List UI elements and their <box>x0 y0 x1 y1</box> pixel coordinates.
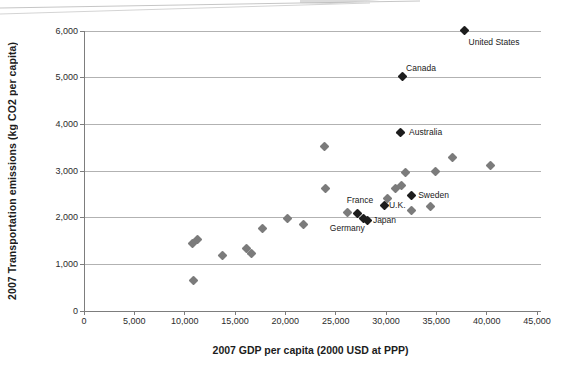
data-point <box>400 168 410 178</box>
data-label-germany: Germany <box>330 223 365 233</box>
data-label-united-states: United States <box>469 37 520 47</box>
x-tick-label: 40,000 <box>462 316 512 326</box>
x-tick-label: 20,000 <box>260 316 310 326</box>
data-point <box>320 141 330 151</box>
y-tick-label: 2,000 <box>38 212 78 222</box>
x-axis-tick <box>134 311 135 315</box>
x-axis-tick <box>285 311 286 315</box>
x-axis-tick <box>235 311 236 315</box>
data-label-japan: Japan <box>373 215 396 225</box>
x-axis-tick <box>537 311 538 315</box>
data-point <box>447 153 457 163</box>
gridline <box>84 77 541 78</box>
y-axis-title: 2007 Transportation emissions (kg CO2 pe… <box>6 28 18 314</box>
page-edge-artifact <box>0 0 578 22</box>
data-point <box>321 184 331 194</box>
gridline <box>84 124 541 125</box>
x-axis-tick <box>184 311 185 315</box>
data-label-canada: Canada <box>406 63 436 73</box>
data-point <box>486 160 496 170</box>
y-axis-line <box>84 31 85 312</box>
data-label-australia: Australia <box>409 127 442 137</box>
x-axis-line <box>84 311 541 312</box>
y-tick-label: 0 <box>38 306 78 316</box>
y-tick-label: 1,000 <box>38 259 78 269</box>
y-tick-label: 5,000 <box>38 72 78 82</box>
data-point <box>218 251 228 261</box>
x-tick-label: 5,000 <box>109 316 159 326</box>
x-tick-label: 45,000 <box>512 316 562 326</box>
x-axis-tick <box>335 311 336 315</box>
data-point-canada <box>397 72 407 82</box>
data-label-u-k: U.K. <box>389 200 406 210</box>
x-axis-tick <box>386 311 387 315</box>
y-axis-tick <box>80 124 84 125</box>
scatter-chart: 2007 Transportation emissions (kg CO2 pe… <box>0 0 578 374</box>
x-axis-tick <box>486 311 487 315</box>
y-tick-label: 4,000 <box>38 119 78 129</box>
data-point-sweden <box>406 190 416 200</box>
data-point <box>189 276 199 286</box>
data-point <box>430 166 440 176</box>
gridline <box>84 217 541 218</box>
y-tick-label: 3,000 <box>38 166 78 176</box>
data-point-united-states <box>460 26 470 36</box>
data-point <box>343 207 353 217</box>
x-tick-label: 15,000 <box>210 316 260 326</box>
gridline <box>84 31 541 32</box>
data-point <box>257 224 267 234</box>
y-axis-tick <box>80 217 84 218</box>
data-label-sweden: Sweden <box>418 190 449 200</box>
data-point <box>282 214 292 224</box>
x-axis-tick <box>84 311 85 315</box>
x-axis-tick <box>436 311 437 315</box>
x-tick-label: 0 <box>59 316 109 326</box>
data-point <box>299 219 309 229</box>
x-tick-label: 35,000 <box>411 316 461 326</box>
y-axis-tick <box>80 77 84 78</box>
x-tick-label: 30,000 <box>361 316 411 326</box>
gridline <box>84 171 541 172</box>
y-axis-tick <box>80 264 84 265</box>
x-tick-label: 25,000 <box>311 316 361 326</box>
y-axis-tick <box>80 171 84 172</box>
y-tick-label: 6,000 <box>38 26 78 36</box>
gridline <box>84 264 541 265</box>
data-point-australia <box>395 127 405 137</box>
data-label-france: France <box>347 195 373 205</box>
x-axis-title: 2007 GDP per capita (2000 USD at PPP) <box>84 344 537 356</box>
data-point <box>406 205 416 215</box>
x-tick-label: 10,000 <box>160 316 210 326</box>
y-axis-tick <box>80 31 84 32</box>
data-point <box>425 201 435 211</box>
